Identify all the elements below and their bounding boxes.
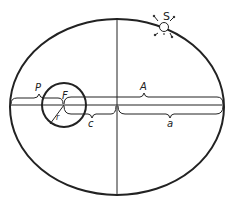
orbit-diagram-graphic: [0, 0, 230, 203]
semi-major-axis-label: a: [167, 119, 173, 129]
apogee-label: A: [140, 82, 147, 92]
semi-major-axis-brace: [118, 106, 223, 118]
focal-distance-brace: [64, 106, 116, 118]
orbit-diagram: S P F A r c a: [0, 0, 230, 203]
perigee-label: P: [35, 83, 41, 93]
apogee-brace: [64, 93, 223, 104]
satellite-label: S: [163, 11, 170, 22]
focal-distance-label: c: [88, 119, 94, 129]
radius-label: r: [56, 114, 59, 122]
perigee-brace: [11, 94, 63, 104]
focus-label: F: [62, 91, 68, 101]
